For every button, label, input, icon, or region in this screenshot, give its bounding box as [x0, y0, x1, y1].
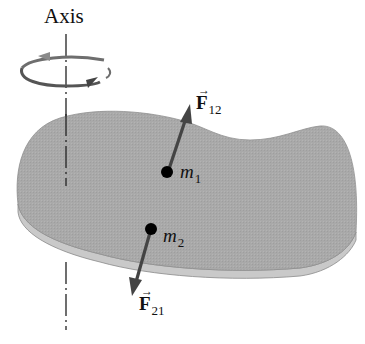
axis-label: Axis [44, 4, 84, 29]
force-label-f12: →F12 [196, 92, 222, 114]
mass-m1-dot [161, 166, 173, 178]
vector-arrow-icon: → [141, 284, 153, 299]
mass-m2-dot [145, 223, 157, 235]
vector-arrow-icon: → [198, 83, 210, 98]
force-label-f21: →F21 [139, 293, 165, 315]
mass-label-m1: m1 [180, 161, 201, 183]
mass-label-m2: m2 [163, 225, 184, 247]
